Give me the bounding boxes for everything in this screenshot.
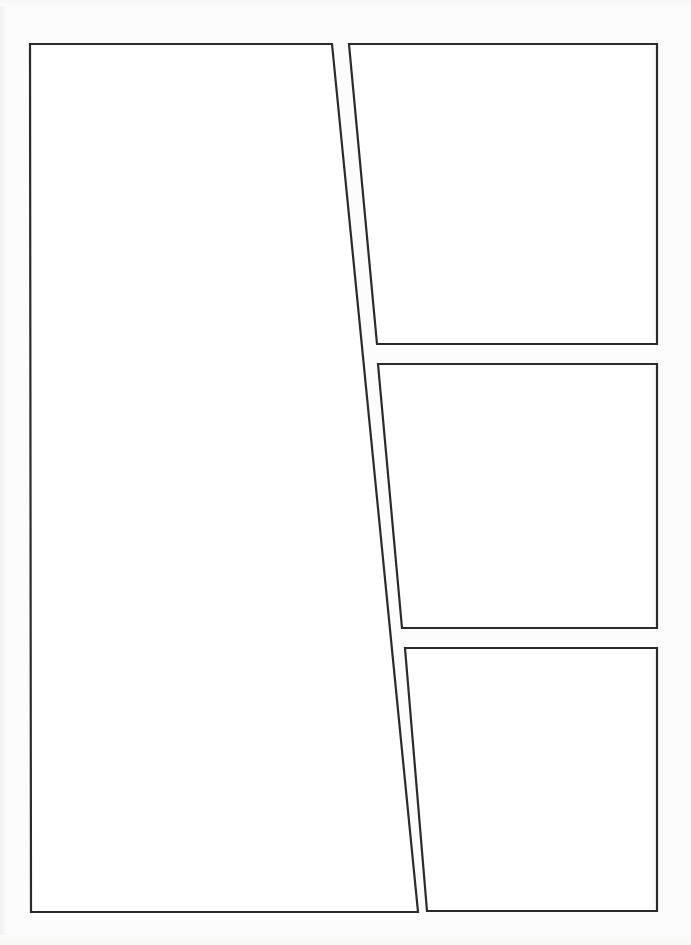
comic-panel-artboard (0, 0, 691, 945)
comic-panel-2[interactable] (349, 44, 657, 344)
comic-panel-3[interactable] (378, 364, 657, 628)
comic-panel-4[interactable] (405, 648, 657, 911)
comic-panel-1[interactable] (30, 44, 418, 912)
comic-page (0, 0, 691, 945)
